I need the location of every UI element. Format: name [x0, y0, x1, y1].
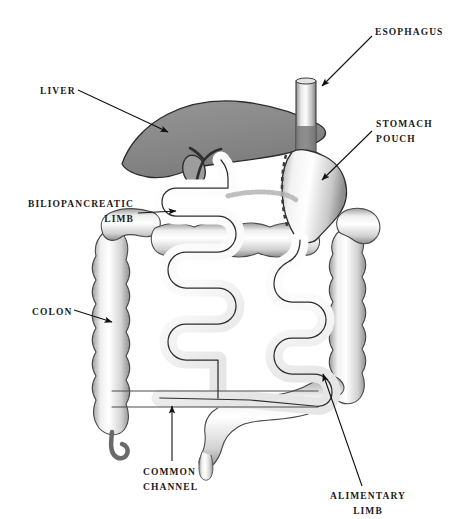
- label-alimentary-limb-line1: ALIMENTARY: [320, 489, 416, 504]
- label-common-channel-line1: COMMON: [143, 465, 198, 480]
- label-biliopancreatic-limb: BILIOPANCREATIC LIMB: [28, 197, 134, 227]
- label-stomach-pouch-line1: STOMACH: [376, 117, 433, 132]
- label-alimentary-limb: ALIMENTARY LIMB: [320, 489, 416, 519]
- leader-liver: [78, 90, 168, 132]
- label-esophagus: ESOPHAGUS: [375, 25, 444, 40]
- label-stomach-pouch: STOMACH POUCH: [376, 117, 433, 147]
- leader-esophagus: [322, 36, 372, 86]
- appendix: [111, 432, 128, 458]
- leader-stomach-pouch: [322, 131, 372, 180]
- label-alimentary-limb-line2: LIMB: [320, 504, 416, 519]
- label-liver: LIVER: [40, 84, 76, 99]
- common-channel-group: [112, 391, 318, 407]
- esophagus-behind-liver: [296, 126, 316, 152]
- label-common-channel-line2: CHANNEL: [143, 480, 198, 495]
- label-colon: COLON: [32, 305, 72, 320]
- esophagus-top-rim: [296, 78, 316, 84]
- label-common-channel: COMMON CHANNEL: [143, 465, 198, 495]
- esophagus-group: [296, 78, 316, 160]
- anatomy-diagram-figure: ESOPHAGUS LIVER STOMACH POUCH BILIOPANCR…: [0, 0, 462, 519]
- biliopancreatic-limb-group: [162, 160, 236, 398]
- label-stomach-pouch-line2: POUCH: [376, 132, 433, 147]
- label-biliopancreatic-limb-line2: LIMB: [28, 212, 134, 227]
- rectum: [199, 452, 213, 480]
- label-biliopancreatic-limb-line1: BILIOPANCREATIC: [28, 197, 134, 212]
- anatomy-illustration: [0, 0, 462, 519]
